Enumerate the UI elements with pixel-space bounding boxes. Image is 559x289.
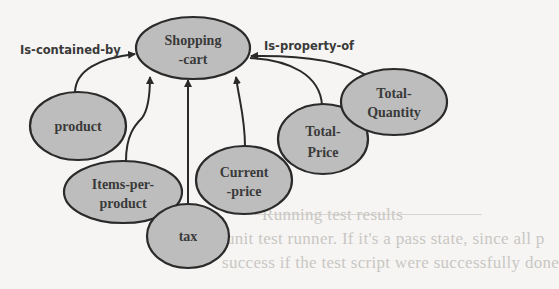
edge-label-is-contained-by: Is-contained-by bbox=[20, 43, 121, 57]
node-tax: tax bbox=[147, 204, 229, 268]
edge-label-is-property-of: Is-property-of bbox=[264, 39, 355, 53]
node-label-line: product bbox=[54, 119, 102, 134]
node-label-line: product bbox=[99, 196, 147, 211]
edge-total-quantity-to-cart bbox=[251, 56, 366, 75]
edge-product-to-cart bbox=[75, 54, 135, 93]
edge-items-per-product-to-cart bbox=[126, 77, 150, 161]
edge-current-price-to-cart bbox=[236, 77, 245, 147]
node-label-line: Total- bbox=[305, 124, 341, 139]
node-label-line: -price bbox=[227, 184, 262, 199]
node-label-line: Price bbox=[307, 145, 338, 160]
node-label-line: tax bbox=[179, 229, 198, 244]
node-label-line: Quantity bbox=[367, 105, 421, 120]
node-product: product bbox=[30, 92, 126, 160]
node-shopping-cart: Shopping -cart bbox=[136, 17, 250, 79]
node-label-line: Current bbox=[220, 165, 269, 180]
edge-total-price-to-cart bbox=[250, 58, 322, 105]
node-current-price: Current -price bbox=[196, 146, 292, 214]
node-label-line: Total- bbox=[376, 86, 412, 101]
node-label-line: -cart bbox=[179, 52, 208, 67]
node-total-quantity: Total- Quantity bbox=[341, 69, 447, 135]
node-label-line: Items-per- bbox=[92, 177, 155, 192]
node-label-line: Shopping bbox=[165, 33, 222, 48]
